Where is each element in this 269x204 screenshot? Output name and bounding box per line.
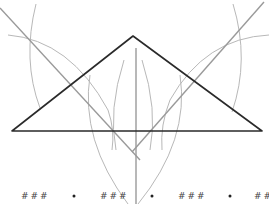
hash-mark: ##	[254, 191, 269, 201]
arc-right-sweep	[162, 35, 269, 150]
geometry-construction-diagram: ###########	[0, 0, 269, 204]
triangle	[12, 36, 262, 131]
hash-mark: ###	[100, 191, 129, 201]
arc-center-right	[138, 75, 182, 204]
arc-left-upper	[30, 4, 40, 108]
dot-mark	[73, 195, 76, 198]
dot-mark	[151, 195, 154, 198]
arc-mid-right	[142, 60, 153, 150]
bisector-right	[132, 2, 264, 152]
dot-mark	[229, 195, 232, 198]
bisector-left	[0, 8, 140, 160]
hash-mark: ###	[21, 191, 50, 201]
hash-mark: ###	[178, 191, 207, 201]
bottom-marks-row: ###########	[21, 191, 269, 201]
arc-right-upper	[232, 4, 241, 112]
